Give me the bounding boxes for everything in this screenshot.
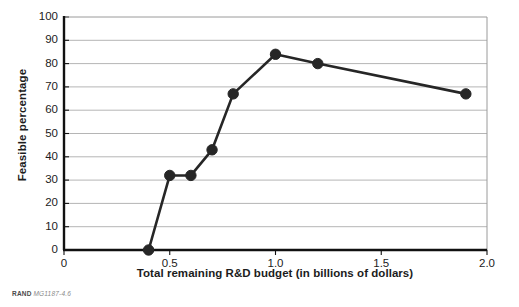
source-document-number: MG1187-4.6 [33,290,71,297]
source-credit: RAND MG1187-4.6 [12,290,71,297]
x-axis-tick-labels: 00.51.01.52.0 [0,0,519,307]
source-brand: RAND [12,290,32,297]
x-axis-title: Total remaining R&D budget (in billions … [63,267,487,279]
figure-container: Feasible percentage 01020304050607080901… [0,0,519,307]
